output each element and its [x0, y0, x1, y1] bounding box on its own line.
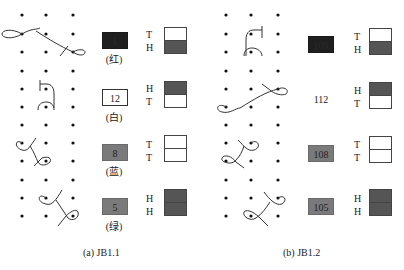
face-bottom-a2: T	[146, 97, 152, 107]
coin-box-a2	[164, 81, 187, 108]
hook-curve-b1	[244, 26, 262, 56]
dot-grid-a	[20, 13, 74, 217]
loop-curve-a4	[39, 190, 78, 226]
loop-curve-b3	[222, 140, 259, 168]
face-top-a2: H	[146, 84, 153, 94]
face-bottom-b3: T	[354, 153, 360, 163]
face-bottom-a1: H	[146, 43, 153, 53]
coin-box-a3	[164, 135, 187, 162]
face-bottom-b1: H	[354, 45, 361, 55]
knot-diagrams	[0, 0, 404, 270]
caption-b: (b) JB1.2	[283, 247, 320, 258]
tile-a4: 5	[102, 198, 128, 215]
tile-b1: 109	[308, 36, 334, 53]
dot-grid-b	[224, 13, 279, 217]
loop-curve-a1	[2, 28, 85, 56]
face-bottom-a4: H	[146, 207, 153, 217]
tile-b4: 105	[308, 198, 334, 215]
face-bottom-a3: T	[146, 153, 152, 163]
coin-box-a1	[164, 27, 187, 54]
color-label-a4: (绿)	[99, 218, 129, 233]
coin-box-b4	[369, 189, 392, 216]
face-top-b2: H	[354, 86, 361, 96]
tile-a1: 1	[102, 32, 128, 49]
face-top-b4: H	[354, 194, 361, 204]
face-top-b1: T	[354, 32, 360, 42]
face-top-a1: T	[146, 30, 152, 40]
coin-box-b2	[369, 82, 392, 109]
tile-b3: 108	[308, 145, 334, 162]
face-top-a3: T	[146, 140, 152, 150]
color-label-a1: (红)	[99, 51, 129, 66]
face-bottom-b2: T	[354, 99, 360, 109]
coin-box-b3	[369, 136, 392, 163]
tile-b2: 112	[308, 91, 334, 108]
caption-a: (a) JB1.1	[83, 247, 120, 258]
coin-box-a4	[164, 189, 187, 216]
face-top-b3: T	[354, 140, 360, 150]
color-label-a2: (白)	[99, 109, 129, 124]
tile-a3: 8	[102, 144, 128, 161]
tile-a2: 12	[102, 89, 128, 106]
face-bottom-b4: H	[354, 207, 361, 217]
coin-box-b1	[369, 28, 392, 55]
figure: 1 (红) T H 12 (白) H T 8 (蓝) T T 5 (绿) H H…	[0, 0, 404, 270]
color-label-a3: (蓝)	[99, 163, 129, 178]
face-top-a4: H	[146, 194, 153, 204]
